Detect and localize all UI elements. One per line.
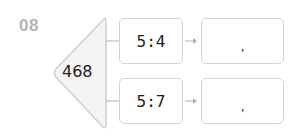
ratio-box-2: 5:7 <box>119 78 183 124</box>
answer-box-2[interactable]: , <box>201 78 284 124</box>
ratio-text-2: 5:7 <box>137 92 166 111</box>
arrow-icon-1 <box>185 38 197 44</box>
answer-separator-2: , <box>241 98 244 114</box>
ratio-box-1: 5:4 <box>119 18 183 64</box>
total-value: 468 <box>62 62 93 81</box>
answer-box-1[interactable]: , <box>201 18 284 64</box>
arrow-icon-2 <box>185 98 197 104</box>
ratio-text-1: 5:4 <box>137 32 166 51</box>
answer-separator-1: , <box>241 38 244 54</box>
